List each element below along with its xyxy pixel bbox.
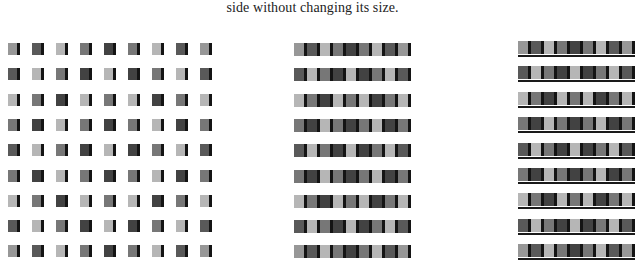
square-row xyxy=(518,244,635,260)
gray-square xyxy=(104,195,116,207)
gray-square xyxy=(557,244,570,257)
gray-square xyxy=(398,220,411,233)
gray-square xyxy=(176,68,188,80)
gray-square xyxy=(56,220,68,232)
gray-square xyxy=(372,119,385,132)
gray-square xyxy=(531,66,544,79)
gray-square xyxy=(56,170,68,182)
gray-square xyxy=(398,144,411,157)
gray-square xyxy=(200,195,212,207)
gray-square xyxy=(104,43,116,55)
gray-square xyxy=(557,92,570,105)
gray-square xyxy=(359,43,372,56)
gray-square xyxy=(320,119,333,132)
gray-square xyxy=(544,66,557,79)
gray-square xyxy=(570,143,583,156)
square-row xyxy=(294,170,411,183)
square-row xyxy=(8,144,213,157)
gray-square xyxy=(152,119,164,131)
gray-square xyxy=(32,170,44,182)
gray-square xyxy=(346,195,359,208)
gray-square xyxy=(80,170,92,182)
gray-square xyxy=(544,193,557,206)
gray-square xyxy=(200,245,212,257)
gray-square xyxy=(176,245,188,257)
gray-square xyxy=(570,92,583,105)
gray-square xyxy=(596,92,609,105)
gray-square xyxy=(128,245,140,257)
gray-square xyxy=(531,143,544,156)
gray-square xyxy=(294,144,307,157)
gray-square xyxy=(359,94,372,107)
gray-square xyxy=(570,244,583,257)
gray-square xyxy=(32,119,44,131)
gray-square xyxy=(176,144,188,156)
square-row xyxy=(294,144,411,157)
gray-square xyxy=(333,68,346,81)
gray-square xyxy=(583,41,596,54)
gray-square xyxy=(152,245,164,257)
gray-square xyxy=(8,94,20,106)
gray-square xyxy=(320,195,333,208)
gray-square xyxy=(8,170,20,182)
gray-square xyxy=(385,43,398,56)
gray-square xyxy=(294,94,307,107)
gray-square xyxy=(104,245,116,257)
gray-square xyxy=(372,220,385,233)
gray-square xyxy=(307,94,320,107)
gray-square xyxy=(385,195,398,208)
gray-square xyxy=(518,41,531,54)
gray-square xyxy=(200,144,212,156)
gray-square xyxy=(320,245,333,258)
gray-square xyxy=(518,168,531,181)
square-row xyxy=(294,195,411,208)
gray-square xyxy=(622,219,635,232)
gray-square xyxy=(200,119,212,131)
gray-square xyxy=(80,245,92,257)
gray-square xyxy=(32,94,44,106)
gray-square xyxy=(32,144,44,156)
gray-square xyxy=(8,119,20,131)
gray-square xyxy=(333,144,346,157)
gray-square xyxy=(385,220,398,233)
gray-square xyxy=(372,170,385,183)
gray-square xyxy=(200,220,212,232)
gray-square xyxy=(346,220,359,233)
gray-square xyxy=(128,68,140,80)
gray-square xyxy=(32,220,44,232)
gray-square xyxy=(359,195,372,208)
gray-square xyxy=(570,193,583,206)
gray-square xyxy=(583,244,596,257)
gray-square xyxy=(56,144,68,156)
gray-square xyxy=(531,219,544,232)
gray-square xyxy=(8,245,20,257)
gray-square xyxy=(622,143,635,156)
gray-square xyxy=(518,219,531,232)
gray-square xyxy=(622,117,635,130)
gray-square xyxy=(346,68,359,81)
gray-square xyxy=(398,68,411,81)
gray-square xyxy=(372,245,385,258)
gray-square xyxy=(596,168,609,181)
square-row xyxy=(8,195,213,208)
gray-square xyxy=(518,92,531,105)
gray-square xyxy=(398,94,411,107)
gray-square xyxy=(359,119,372,132)
gray-square xyxy=(333,195,346,208)
square-row xyxy=(8,43,213,56)
square-row xyxy=(518,117,635,133)
gray-square xyxy=(609,244,622,257)
square-row xyxy=(294,220,411,233)
gray-square xyxy=(294,119,307,132)
gray-square xyxy=(104,119,116,131)
gray-square xyxy=(176,220,188,232)
gray-square xyxy=(518,66,531,79)
gray-square xyxy=(56,119,68,131)
gray-square xyxy=(200,68,212,80)
gray-square xyxy=(385,119,398,132)
gray-square xyxy=(583,168,596,181)
gray-square xyxy=(570,117,583,130)
gray-square xyxy=(385,94,398,107)
gray-square xyxy=(359,220,372,233)
gray-square xyxy=(609,193,622,206)
